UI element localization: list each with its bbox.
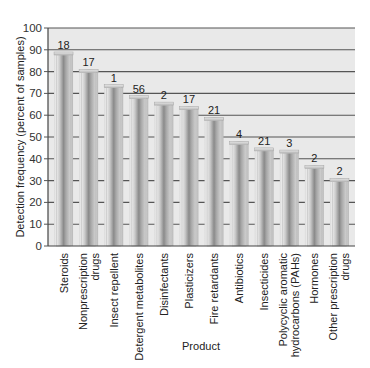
x-category-label: Polycyclic aromatichydrocarbons (PAHs) xyxy=(277,253,301,358)
y-tick-label: 70 xyxy=(29,87,42,99)
y-tick-label: 20 xyxy=(29,196,42,208)
y-tick-label: 80 xyxy=(29,66,42,78)
y-tick-label: 60 xyxy=(29,109,42,121)
bar-chart: 181715621721421322 010203040506070809010… xyxy=(0,0,370,368)
y-tick-label: 30 xyxy=(29,175,42,187)
x-category-label: Hormones xyxy=(308,253,320,304)
x-category-label: Disinfectants xyxy=(158,253,170,316)
bar-value-label: 18 xyxy=(57,39,69,51)
y-tick-label: 0 xyxy=(36,240,42,252)
bar xyxy=(79,69,98,246)
x-category-label: Plasticizers xyxy=(183,253,195,309)
y-tick-label: 10 xyxy=(29,218,42,230)
bar-value-label: 21 xyxy=(208,104,220,116)
bar xyxy=(230,141,249,246)
bar xyxy=(154,102,173,246)
x-category-label: Insecticides xyxy=(258,253,270,311)
x-category-label: Other prescriptiondrugs xyxy=(327,253,351,341)
y-axis-ticks: 0102030405060708090100 xyxy=(23,22,48,252)
bar xyxy=(305,165,324,246)
x-category-label: Steroids xyxy=(58,253,70,294)
bar xyxy=(129,96,148,246)
x-category-label: Insect repellent xyxy=(108,253,120,328)
bar-value-label: 3 xyxy=(286,137,292,149)
y-tick-label: 90 xyxy=(29,44,42,56)
x-category-label: Antibiotics xyxy=(233,253,245,304)
bar-value-label: 4 xyxy=(236,128,242,140)
x-category-label: Detergent metabolites xyxy=(133,253,145,361)
bar-value-label: 2 xyxy=(311,152,317,164)
x-axis-title: Product xyxy=(182,340,220,352)
bar-value-label: 2 xyxy=(336,165,342,177)
x-category-label: Nonprescriptiondrugs xyxy=(77,253,101,331)
y-axis-title: Detection frequency (percent of samples) xyxy=(14,36,26,237)
bar xyxy=(205,117,224,246)
bar-value-label: 17 xyxy=(183,93,195,105)
bar xyxy=(179,106,198,246)
bar-value-label: 2 xyxy=(161,89,167,101)
y-tick-label: 100 xyxy=(23,22,42,34)
bar xyxy=(54,52,73,246)
bar xyxy=(255,148,274,246)
bar-value-label: 17 xyxy=(83,56,95,68)
bar xyxy=(280,150,299,246)
x-category-label: Fire retardants xyxy=(208,253,220,325)
bar xyxy=(104,85,123,246)
bar xyxy=(330,178,349,246)
bar-value-label: 56 xyxy=(133,83,145,95)
y-tick-label: 40 xyxy=(29,153,42,165)
bar-value-label: 21 xyxy=(258,135,270,147)
y-tick-label: 50 xyxy=(29,131,42,143)
bar-value-label: 1 xyxy=(111,72,117,84)
